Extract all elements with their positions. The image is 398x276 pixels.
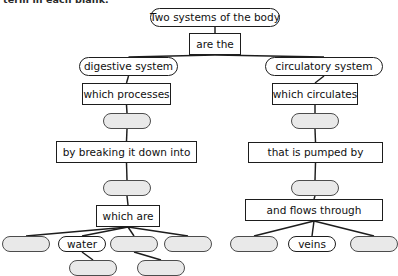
node-root: Two systems of the body <box>150 8 280 27</box>
connector-and-flows-to-blank-g <box>314 221 374 236</box>
connector-by-breaking-to-blank-l2 <box>127 163 128 180</box>
answer-blank-blank-r2[interactable] <box>291 180 339 196</box>
node-and-flows: and flows through <box>245 199 383 221</box>
connector-and-flows-to-blank-f <box>254 221 314 236</box>
node-are-the: are the <box>189 33 241 55</box>
connector-digestive-to-which-processes <box>127 76 129 83</box>
connector-water-to-blank-d <box>82 252 93 260</box>
answer-blank-blank-l1[interactable] <box>103 113 151 129</box>
answer-blank-blank-g[interactable] <box>350 236 398 252</box>
node-that-is-pumped: that is pumped by <box>248 142 383 163</box>
node-circulatory: circulatory system <box>265 57 383 76</box>
connector-blank-l2-to-which-are <box>127 196 128 205</box>
connector-and-flows-to-veins <box>312 221 314 236</box>
answer-blank-blank-e[interactable] <box>137 260 185 276</box>
connector-which-processes-to-blank-l1 <box>127 105 128 113</box>
node-which-processes: which processes <box>82 83 171 105</box>
node-which-are: which are <box>96 205 160 227</box>
node-by-breaking: by breaking it down into <box>56 141 197 163</box>
connector-that-is-pumped-to-blank-r2 <box>315 163 316 180</box>
answer-blank-blank-a[interactable] <box>2 236 50 252</box>
node-water: water <box>58 236 106 252</box>
node-digestive: digestive system <box>79 57 178 76</box>
answer-blank-blank-l2[interactable] <box>103 180 151 196</box>
connector-which-are-to-blank-c <box>128 227 188 236</box>
connector-circulatory-to-which-circulates <box>315 76 324 83</box>
connector-blank-l1-to-by-breaking <box>127 129 128 141</box>
answer-blank-blank-c[interactable] <box>164 236 212 252</box>
answer-blank-blank-d[interactable] <box>69 260 117 276</box>
node-veins: veins <box>288 236 336 252</box>
answer-blank-blank-b[interactable] <box>110 236 158 252</box>
node-which-circulates: which circulates <box>272 83 358 105</box>
connector-blank-b-to-blank-e <box>134 252 161 260</box>
connector-blank-r1-to-that-is-pumped <box>315 129 316 142</box>
answer-blank-blank-r1[interactable] <box>291 113 339 129</box>
answer-blank-blank-f[interactable] <box>230 236 278 252</box>
connector-which-are-to-blank-a <box>26 227 128 236</box>
